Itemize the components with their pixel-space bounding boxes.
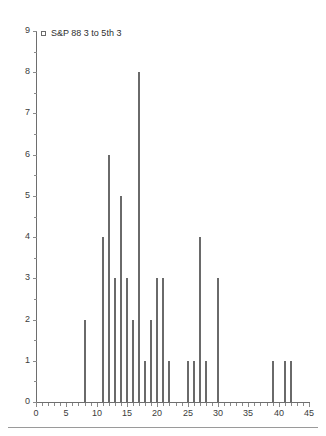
legend-label: S&P 88 3 to 5th 3 xyxy=(51,29,121,38)
x-axis-tick-label: 10 xyxy=(85,409,109,418)
x-axis-tick xyxy=(48,403,49,406)
x-axis-tick xyxy=(139,403,140,406)
x-axis-tick xyxy=(212,403,213,406)
y-axis-tick xyxy=(33,72,37,73)
x-axis-tick xyxy=(236,403,237,406)
y-axis-tick-label: 0 xyxy=(12,397,30,406)
bar xyxy=(114,278,116,402)
chart-container: 0123456789 051015202530354045 S&P 88 3 t… xyxy=(0,0,326,436)
y-axis-tick-label: 2 xyxy=(12,315,30,324)
x-axis-tick xyxy=(157,403,158,407)
y-axis-tick xyxy=(34,175,37,176)
y-axis-tick xyxy=(33,113,37,114)
y-axis-tick-label: 8 xyxy=(12,67,30,76)
y-axis-tick-label: 7 xyxy=(12,108,30,117)
x-axis-tick xyxy=(297,403,298,406)
y-axis-tick xyxy=(34,340,37,341)
y-axis-tick xyxy=(34,258,37,259)
x-axis-tick xyxy=(133,403,134,406)
x-axis-tick-label: 15 xyxy=(115,409,139,418)
x-axis-tick-label: 40 xyxy=(267,409,291,418)
bar xyxy=(84,320,86,402)
x-axis-tick xyxy=(182,403,183,406)
x-axis-tick xyxy=(273,403,274,406)
bar xyxy=(199,237,201,402)
bar xyxy=(272,361,274,402)
y-axis-tick-label: 6 xyxy=(12,150,30,159)
bar xyxy=(205,361,207,402)
y-axis-tick xyxy=(33,320,37,321)
y-axis-tick-label: 9 xyxy=(12,26,30,35)
x-axis-tick xyxy=(242,403,243,406)
bar xyxy=(120,196,122,402)
x-axis-tick xyxy=(206,403,207,406)
bar xyxy=(144,361,146,402)
x-axis-tick xyxy=(72,403,73,406)
x-axis-tick xyxy=(145,403,146,406)
y-axis-tick xyxy=(33,31,37,32)
x-axis-tick xyxy=(279,403,280,407)
x-axis-tick xyxy=(163,403,164,406)
x-axis-tick xyxy=(91,403,92,406)
y-axis-tick xyxy=(33,196,37,197)
bar xyxy=(102,237,104,402)
x-axis-tick xyxy=(291,403,292,406)
y-axis-tick-label: 5 xyxy=(12,191,30,200)
y-axis-tick xyxy=(34,381,37,382)
x-axis-tick xyxy=(200,403,201,406)
x-axis-tick xyxy=(151,403,152,406)
x-axis-tick-label: 30 xyxy=(206,409,230,418)
bar xyxy=(156,278,158,402)
x-axis-tick xyxy=(176,403,177,406)
x-axis-tick xyxy=(224,403,225,406)
x-axis-tick xyxy=(169,403,170,406)
x-axis-tick-label: 45 xyxy=(297,409,321,418)
x-axis-tick xyxy=(42,403,43,406)
x-axis-tick xyxy=(54,403,55,406)
y-axis-tick xyxy=(34,134,37,135)
bar xyxy=(162,278,164,402)
y-axis-tick xyxy=(33,237,37,238)
x-axis-tick xyxy=(188,403,189,407)
x-axis-tick xyxy=(109,403,110,406)
y-axis-tick xyxy=(33,155,37,156)
x-axis-tick-label: 25 xyxy=(176,409,200,418)
bar xyxy=(187,361,189,402)
x-axis-tick-label: 5 xyxy=(54,409,78,418)
x-axis-tick xyxy=(309,403,310,407)
y-axis-tick-label: 4 xyxy=(12,232,30,241)
bottom-divider xyxy=(8,427,318,428)
y-axis-tick xyxy=(34,217,37,218)
x-axis-tick xyxy=(78,403,79,406)
bar xyxy=(284,361,286,402)
legend-marker-icon xyxy=(41,31,46,36)
bar xyxy=(193,361,195,402)
bar xyxy=(108,155,110,402)
x-axis-tick xyxy=(248,403,249,407)
bar xyxy=(168,361,170,402)
y-axis-tick xyxy=(34,93,37,94)
x-axis-tick xyxy=(103,403,104,406)
x-axis-tick xyxy=(121,403,122,406)
x-axis-tick xyxy=(97,403,98,407)
x-axis-tick xyxy=(254,403,255,406)
y-axis-tick xyxy=(33,278,37,279)
x-axis-tick xyxy=(194,403,195,406)
x-axis-tick xyxy=(36,403,37,407)
x-axis-tick-label: 20 xyxy=(145,409,169,418)
y-axis-tick xyxy=(33,361,37,362)
legend: S&P 88 3 to 5th 3 xyxy=(41,29,121,38)
x-axis-tick xyxy=(218,403,219,407)
x-axis-tick xyxy=(230,403,231,406)
x-axis-tick-label: 35 xyxy=(236,409,260,418)
x-axis-tick xyxy=(85,403,86,406)
y-axis-tick-label: 3 xyxy=(12,273,30,282)
y-axis-tick xyxy=(34,52,37,53)
x-axis-tick xyxy=(66,403,67,407)
x-axis-tick xyxy=(127,403,128,407)
bar xyxy=(150,320,152,402)
bar xyxy=(138,72,140,402)
y-axis-tick-label: 1 xyxy=(12,356,30,365)
x-axis-tick-label: 0 xyxy=(24,409,48,418)
x-axis-tick xyxy=(303,403,304,406)
